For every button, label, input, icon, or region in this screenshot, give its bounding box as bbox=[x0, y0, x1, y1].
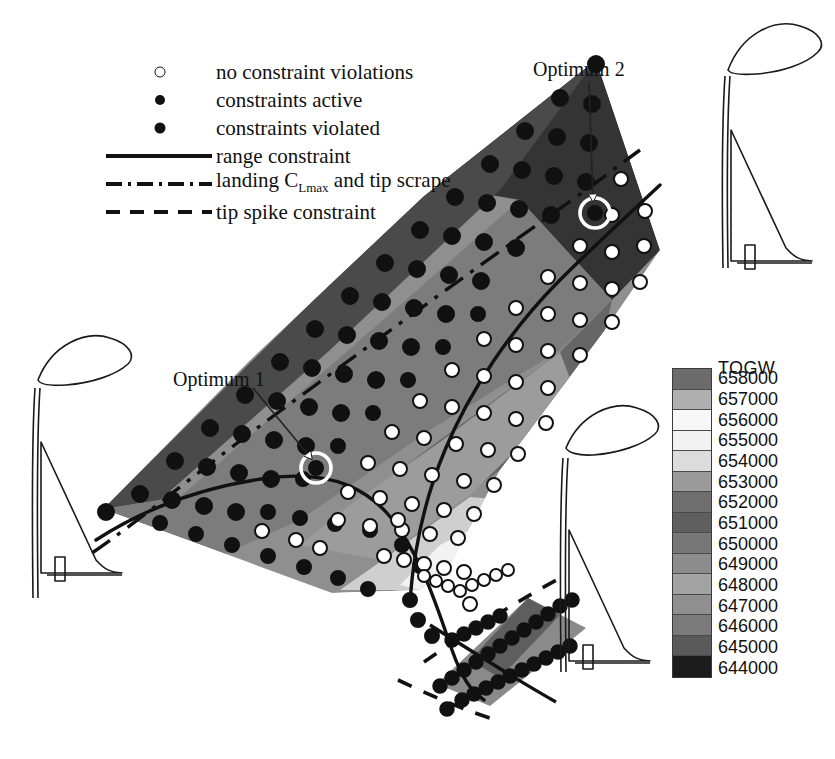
colorbar-band bbox=[673, 513, 711, 534]
dash-dot-line-icon bbox=[104, 170, 216, 198]
colorbar-tick-label: 649000 bbox=[718, 555, 778, 573]
colorbar-tick-label: 650000 bbox=[718, 535, 778, 553]
dashed-line-icon bbox=[104, 198, 216, 226]
colorbar-band bbox=[673, 369, 711, 390]
colorbar-tick-label: 645000 bbox=[718, 638, 778, 656]
legend-label-subscript: Lmax bbox=[298, 180, 328, 195]
legend-item: landing CLmax and tip scrape bbox=[104, 170, 464, 198]
colorbar-band bbox=[673, 636, 711, 657]
colorbar-band bbox=[673, 410, 711, 431]
colorbar-band bbox=[673, 492, 711, 513]
filled-circle-small-icon bbox=[104, 86, 216, 114]
colorbar-tick-label: 657000 bbox=[718, 390, 778, 408]
colorbar-band bbox=[673, 451, 711, 472]
legend-item: constraints violated bbox=[104, 114, 464, 142]
legend-item: constraints active bbox=[104, 86, 464, 114]
colorbar-band bbox=[673, 472, 711, 493]
colorbar-tick-label: 647000 bbox=[718, 597, 778, 615]
colorbar-tick-label: 656000 bbox=[718, 411, 778, 429]
colorbar bbox=[672, 368, 712, 678]
figure-canvas: no constraint violations constraints act… bbox=[0, 0, 835, 759]
colorbar-tick-group: 6580006570006560006550006540006530006520… bbox=[718, 368, 828, 688]
colorbar-band bbox=[673, 615, 711, 636]
colorbar-tick-label: 648000 bbox=[718, 576, 778, 594]
legend-item: tip spike constraint bbox=[104, 198, 464, 226]
colorbar-tick-label: 644000 bbox=[718, 659, 778, 677]
legend: no constraint violations constraints act… bbox=[104, 58, 464, 226]
open-circle-icon bbox=[104, 58, 216, 86]
legend-item-label: tip spike constraint bbox=[216, 201, 376, 223]
colorbar-band bbox=[673, 533, 711, 554]
legend-item-label: landing CLmax and tip scrape bbox=[216, 169, 450, 199]
colorbar-tick-label: 646000 bbox=[718, 617, 778, 635]
colorbar-band bbox=[673, 656, 711, 677]
colorbar-tick-label: 652000 bbox=[718, 493, 778, 511]
filled-circle-large-icon bbox=[104, 114, 216, 142]
colorbar-band bbox=[673, 595, 711, 616]
legend-item-label: no constraint violations bbox=[216, 61, 413, 83]
colorbar-tick-label: 658000 bbox=[718, 369, 778, 387]
legend-label-post: and tip scrape bbox=[329, 168, 451, 192]
colorbar-band bbox=[673, 431, 711, 452]
colorbar-tick-label: 653000 bbox=[718, 473, 778, 491]
legend-item-label: range constraint bbox=[216, 145, 351, 167]
legend-label-pre: landing C bbox=[216, 168, 298, 192]
optimum-1-label: Optimum 1 bbox=[173, 368, 265, 391]
legend-item-label: constraints active bbox=[216, 89, 362, 111]
solid-line-icon bbox=[104, 142, 216, 170]
aircraft-sketch bbox=[722, 24, 821, 269]
aircraft-sketch bbox=[560, 406, 658, 672]
legend-item: range constraint bbox=[104, 142, 464, 170]
aircraft-sketch bbox=[32, 336, 131, 598]
colorbar-tick-label: 654000 bbox=[718, 452, 778, 470]
colorbar-tick-label: 651000 bbox=[718, 514, 778, 532]
colorbar-band bbox=[673, 554, 711, 575]
optimum-2-label: Optimum 2 bbox=[533, 58, 625, 81]
legend-item-label: constraints violated bbox=[216, 117, 380, 139]
legend-item: no constraint violations bbox=[104, 58, 464, 86]
colorbar-tick-label: 655000 bbox=[718, 431, 778, 449]
colorbar-band bbox=[673, 390, 711, 411]
colorbar-band bbox=[673, 574, 711, 595]
